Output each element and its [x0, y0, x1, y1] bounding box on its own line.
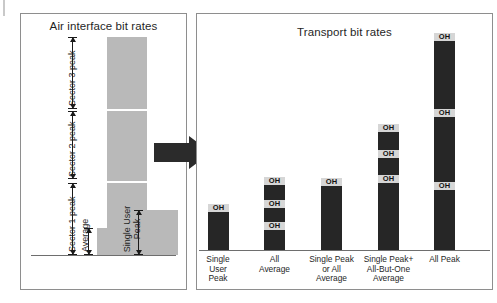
overhead-band: OH: [378, 150, 399, 158]
payload-segment: [434, 190, 455, 250]
sector-divider-2-1: [107, 181, 147, 183]
figure-root: Air interface bit rates Sector 3 peak Se…: [0, 0, 497, 303]
page-margin-tick: [3, 0, 5, 16]
axis-baseline-right: [199, 250, 490, 251]
overhead-band: OH: [378, 124, 399, 132]
axis-baseline-left: [31, 255, 176, 256]
overhead-band: OH: [264, 222, 285, 230]
overhead-band: OH: [264, 200, 285, 208]
payload-segment: [208, 212, 229, 250]
transport-bar-all-peak: OH OH OH: [434, 14, 455, 250]
bar-single-user-peak: [147, 210, 178, 255]
overhead-band: OH: [378, 175, 399, 183]
label-single-user-peak: Single User Peak: [122, 204, 142, 254]
overhead-band: OH: [208, 204, 229, 212]
payload-segment: [434, 41, 455, 109]
payload-segment: [264, 208, 285, 222]
overhead-band: OH: [434, 182, 455, 190]
xlabel-all-peak: All Peak: [411, 255, 478, 265]
payload-segment: [264, 185, 285, 200]
transport-bar-single-peak-plus-all-but-one-average: OH OH OH: [378, 14, 399, 250]
overhead-band: OH: [434, 109, 455, 117]
label-sector-2-peak: Sector 2 peak: [67, 121, 77, 177]
transport-bar-single-peak-or-all-average: OH: [321, 14, 342, 250]
panel-title-air-interface: Air interface bit rates: [21, 20, 186, 32]
payload-segment: [321, 186, 342, 250]
panel-transport: Transport bit rates OH Single User Peak …: [196, 13, 493, 290]
label-sector-1-peak: Sector 1 peak: [67, 196, 77, 252]
payload-segment: [264, 230, 285, 250]
overhead-band: OH: [321, 178, 342, 186]
payload-segment: [378, 132, 399, 150]
transport-bar-single-user-peak: OH: [208, 14, 229, 250]
label-sector-3-peak: Sector 3 peak: [67, 50, 77, 106]
payload-segment: [378, 183, 399, 250]
payload-segment: [434, 117, 455, 182]
sector-divider-3-2: [107, 109, 147, 111]
label-average: Average: [80, 219, 90, 252]
transport-bar-all-average: OH OH OH: [264, 14, 285, 250]
overhead-band: OH: [264, 177, 285, 185]
payload-segment: [378, 158, 399, 175]
overhead-band: OH: [434, 33, 455, 41]
